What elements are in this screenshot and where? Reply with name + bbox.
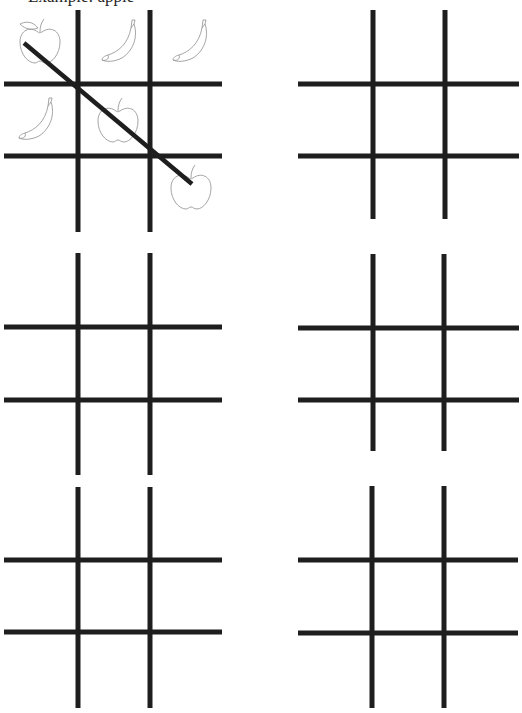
grid-lines: [4, 253, 222, 475]
tic-tac-toe-board-4[interactable]: [290, 245, 522, 475]
tic-tac-toe-board-3[interactable]: [0, 245, 230, 485]
tic-tac-toe-board-6[interactable]: [290, 480, 522, 713]
grid-lines: [298, 10, 519, 219]
grid-lines: [298, 254, 519, 451]
tic-tac-toe-board-2[interactable]: [0, 0, 522, 240]
tic-tac-toe-board-5[interactable]: [0, 480, 230, 713]
grid-lines: [4, 487, 222, 708]
grid-lines: [298, 486, 518, 708]
